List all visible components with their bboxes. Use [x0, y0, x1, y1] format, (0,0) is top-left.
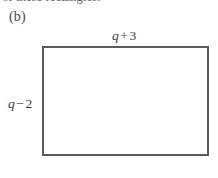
left-label-variable: q: [8, 96, 15, 111]
figure-page: ch of these rectangles. (b) q+3 q−2: [0, 0, 218, 178]
top-label-variable: q: [112, 28, 119, 43]
rectangle-shape: [42, 46, 209, 156]
dimension-label-top: q+3: [112, 28, 136, 43]
left-label-operator: −: [15, 96, 26, 111]
left-label-constant: 2: [25, 96, 32, 111]
top-label-constant: 3: [129, 28, 136, 43]
dimension-label-left: q−2: [8, 96, 32, 111]
clipped-header-text: ch of these rectangles.: [0, 0, 187, 4]
top-label-operator: +: [119, 28, 130, 43]
part-label-b: (b): [9, 9, 26, 25]
